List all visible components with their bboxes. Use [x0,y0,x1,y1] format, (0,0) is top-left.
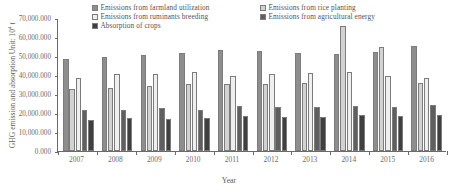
bar [102,57,107,151]
legend-label: Emissions from farmland utilization [101,3,210,12]
bar [353,106,358,151]
bar [302,83,307,151]
x-axis-tick-mark [291,151,292,155]
ghg-emission-bar-chart: Emissions from farmland utilization Emis… [0,0,458,195]
bar [418,83,423,151]
bar [430,105,435,151]
x-axis-tick-label: 2016 [407,155,446,164]
y-axis-tick-label: 40,000.000 [19,72,51,80]
bar [159,108,164,151]
plot-area [57,19,446,152]
bar [243,116,248,151]
bar [295,53,300,151]
bar [121,110,126,151]
x-axis-tick-label: 2014 [329,155,368,164]
bar [127,118,132,151]
bar [398,116,403,151]
bar-group [291,19,330,151]
bar-group [98,19,137,151]
bar [379,47,384,151]
bar [166,119,171,151]
bar [147,86,152,151]
bar-group [407,19,446,151]
bar [186,84,191,151]
x-axis-title: Year [0,176,458,185]
x-axis-tick-label: 2007 [57,155,96,164]
bar [340,26,345,151]
legend-item-rice-planting: Emissions from rice planting [260,3,452,12]
y-axis-tick-label: 10,000.000 [19,129,51,137]
bar [257,51,262,151]
x-axis-tick-mark [214,151,215,155]
bar [204,118,209,151]
bar [373,52,378,151]
legend-swatch-icon [92,5,98,11]
bar [108,88,113,151]
bar [153,74,158,151]
bar-group [59,19,98,151]
bar [411,46,416,151]
y-axis-tick-mark [55,133,59,134]
bar-group [214,19,253,151]
bar [424,78,429,151]
legend-item-farmland-utilization: Emissions from farmland utilization [92,3,260,12]
y-axis-tick-label: 30,000.000 [19,91,51,99]
bar [179,53,184,151]
bar-group [175,19,214,151]
bar [282,117,287,151]
bar-group [369,19,408,151]
bar [334,54,339,151]
x-axis-tick-mark [97,151,98,155]
x-axis-tick-label: 2008 [96,155,135,164]
bar [69,89,74,151]
y-axis-tick-label: 50,000.000 [19,53,51,61]
bar [437,115,442,151]
x-axis-tick-mark [58,151,59,155]
y-axis-title-main: GHG emission and absorption Unit: 10 [8,29,17,148]
bar [192,72,197,151]
x-axis-tick-labels: 2007200820092010201120122013201420152016 [57,155,446,164]
bar-groups [59,19,446,151]
y-axis-title: GHG emission and absorption Unit: 104 t [7,15,18,155]
bar [63,59,68,151]
bar [198,110,203,151]
bar [141,55,146,151]
y-axis-tick-mark [55,57,59,58]
x-axis-tick-label: 2015 [368,155,407,164]
bar [392,107,397,151]
legend-label: Emissions from rice planting [269,3,356,12]
y-axis-tick-mark [55,76,59,77]
bar [269,74,274,151]
bar [237,106,242,151]
bar [320,117,325,151]
y-axis-tick-label: 20,000.000 [19,110,51,118]
x-axis-tick-label: 2012 [252,155,291,164]
bar [82,110,87,151]
y-axis-tick-label: 70,000.000 [19,15,51,23]
bar [230,76,235,151]
bar [224,84,229,151]
y-axis-title-unit: t [8,22,17,26]
x-axis-tick-mark [447,151,448,155]
bar [359,115,364,151]
x-axis-tick-mark [136,151,137,155]
y-axis-tick-label: 60,000.000 [19,34,51,42]
bar [308,73,313,151]
bar-group [253,19,292,151]
bar-group [330,19,369,151]
x-axis-tick-mark [175,151,176,155]
bar [218,50,223,151]
bar [385,76,390,151]
legend-swatch-icon [260,5,266,11]
y-axis-tick-label: 0.000 [35,148,51,156]
bar-group [136,19,175,151]
x-axis-tick-mark [253,151,254,155]
y-axis-tick-mark [55,114,59,115]
y-axis-title-exponent: 4 [7,26,13,29]
x-axis-tick-mark [408,151,409,155]
x-axis-tick-label: 2010 [174,155,213,164]
y-axis-tick-mark [55,95,59,96]
bar [275,107,280,151]
x-axis-tick-mark [330,151,331,155]
y-axis-tick-mark [55,19,59,20]
